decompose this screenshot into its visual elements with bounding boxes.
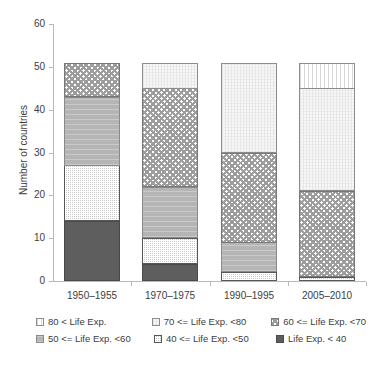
legend-item-60-70[interactable]: 60 <= Life Exp. <70 <box>271 316 366 327</box>
y-axis-line <box>53 24 54 282</box>
bar-segment-60[interactable] <box>142 88 198 187</box>
x-tick-label: 1990–1995 <box>210 290 288 301</box>
bar-segment-70[interactable] <box>221 63 277 153</box>
legend-item-80-plus[interactable]: 80 < Life Exp. <box>36 316 152 327</box>
y-tick-mark <box>49 67 53 68</box>
bar-segment-60[interactable] <box>64 63 120 97</box>
y-tick-label: 10 <box>19 233 45 243</box>
legend-row-2: 50 <= Life Exp. <60 40 <= Life Exp. <50 … <box>36 333 366 344</box>
legend-swatch-icon-80-plus <box>36 318 44 326</box>
bar-segment-lt40[interactable] <box>64 221 120 281</box>
y-tick-mark <box>49 110 53 111</box>
bar-segment-60[interactable] <box>299 191 355 277</box>
chart-legend: 80 < Life Exp. 70 <= Life Exp. <80 60 <=… <box>36 316 366 350</box>
bar-segment-50[interactable] <box>142 187 198 238</box>
x-tick-label: 1970–1975 <box>131 290 209 301</box>
legend-label-lt-40: Life Exp. < 40 <box>288 333 346 344</box>
legend-label-60-70: 60 <= Life Exp. <70 <box>283 316 366 327</box>
stacked-bar[interactable] <box>64 24 120 282</box>
legend-swatch-icon-50-60 <box>36 335 44 343</box>
y-tick-label: 40 <box>19 105 45 115</box>
y-tick-mark <box>49 195 53 196</box>
legend-item-50-60[interactable]: 50 <= Life Exp. <60 <box>36 333 154 344</box>
bar-segment-40[interactable] <box>221 272 277 281</box>
legend-label-80-plus: 80 < Life Exp. <box>48 316 106 327</box>
y-tick-mark <box>49 238 53 239</box>
y-tick-label: 0 <box>19 276 45 286</box>
y-tick-label: 60 <box>19 19 45 29</box>
bar-segment-80[interactable] <box>299 63 355 89</box>
x-tick-label: 1950–1955 <box>53 290 131 301</box>
bar-segment-50[interactable] <box>64 97 120 166</box>
stacked-bar[interactable] <box>299 24 355 282</box>
legend-label-70-80: 70 <= Life Exp. <80 <box>164 316 247 327</box>
legend-item-lt-40[interactable]: Life Exp. < 40 <box>276 333 346 344</box>
bar-segment-40[interactable] <box>142 238 198 264</box>
legend-row-1: 80 < Life Exp. 70 <= Life Exp. <80 60 <=… <box>36 316 366 327</box>
stacked-bar[interactable] <box>142 24 198 282</box>
stacked-bar[interactable] <box>221 24 277 282</box>
x-tick-mark <box>131 282 132 286</box>
legend-swatch-icon-60-70 <box>271 318 279 326</box>
bar-segment-40[interactable] <box>299 277 355 281</box>
y-tick-mark <box>49 24 53 25</box>
y-tick-label: 30 <box>19 148 45 158</box>
bar-segment-60[interactable] <box>221 153 277 243</box>
legend-label-50-60: 50 <= Life Exp. <60 <box>48 333 131 344</box>
legend-swatch-icon-lt-40 <box>276 335 284 343</box>
bar-segment-40[interactable] <box>64 165 120 221</box>
legend-item-70-80[interactable]: 70 <= Life Exp. <80 <box>152 316 272 327</box>
x-tick-label: 2005–2010 <box>288 290 366 301</box>
y-tick-label: 50 <box>19 62 45 72</box>
bar-segment-lt40[interactable] <box>142 264 198 281</box>
legend-swatch-icon-40-50 <box>154 335 162 343</box>
bar-segment-70[interactable] <box>299 88 355 191</box>
y-tick-label: 20 <box>19 190 45 200</box>
x-tick-mark <box>210 282 211 286</box>
x-tick-mark <box>288 282 289 286</box>
y-tick-mark <box>49 281 53 282</box>
y-tick-mark <box>49 153 53 154</box>
legend-item-40-50[interactable]: 40 <= Life Exp. <50 <box>154 333 276 344</box>
bar-segment-50[interactable] <box>221 242 277 272</box>
x-tick-mark <box>366 282 367 286</box>
legend-swatch-icon-70-80 <box>152 318 160 326</box>
bar-segment-70[interactable] <box>142 63 198 89</box>
legend-label-40-50: 40 <= Life Exp. <50 <box>166 333 249 344</box>
